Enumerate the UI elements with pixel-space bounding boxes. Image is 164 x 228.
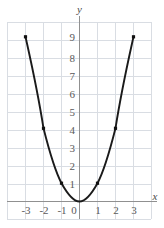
y-tick-label: 9: [70, 31, 76, 43]
x-tick-label: 0: [71, 204, 77, 216]
parabola-plot: 1 2 3 4 5 6 7 8 9 -3 -2 -1 0 1 2 3 y x: [0, 0, 164, 228]
x-tick-label: 3: [131, 204, 137, 216]
y-tick-label: 5: [70, 106, 76, 118]
x-tick-label: -1: [57, 204, 66, 216]
y-tick-labels: 1 2 3 4 5 6 7 8 9: [70, 31, 76, 190]
y-tick-label: 6: [70, 88, 76, 100]
plot-background: [0, 0, 164, 228]
x-tick-label: -2: [39, 204, 48, 216]
data-point: [24, 35, 27, 38]
y-tick-label: 2: [70, 160, 76, 172]
x-tick-label: -3: [21, 204, 31, 216]
data-point: [132, 35, 135, 38]
y-tick-label: 7: [70, 70, 76, 82]
y-tick-label: 3: [70, 142, 76, 154]
data-point: [42, 127, 45, 130]
x-tick-label: 2: [113, 204, 119, 216]
data-point: [96, 182, 99, 185]
y-axis-label: y: [76, 3, 82, 15]
x-tick-label: 1: [95, 204, 101, 216]
y-tick-label: 1: [70, 178, 76, 190]
y-tick-label: 4: [70, 124, 76, 136]
y-tick-label: 8: [70, 52, 76, 64]
graph-figure: 1 2 3 4 5 6 7 8 9 -3 -2 -1 0 1 2 3 y x: [0, 0, 164, 228]
data-point: [60, 182, 63, 185]
x-axis-label: x: [152, 190, 158, 202]
data-point: [114, 127, 117, 130]
